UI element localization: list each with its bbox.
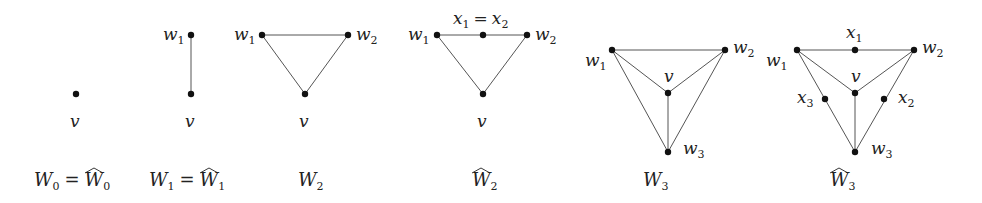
svg-text:w3: w3 (871, 138, 893, 161)
svg-text:w2: w2 (733, 37, 755, 60)
svg-text:x1: x1 (846, 22, 863, 45)
svg-text:w2: w2 (356, 24, 378, 47)
svg-text:x3: x3 (797, 87, 814, 110)
svg-text:w2: w2 (535, 24, 557, 47)
svg-text:w1: w1 (766, 50, 788, 73)
svg-text:v: v (664, 66, 674, 86)
svg-text:w1: w1 (585, 50, 607, 73)
svg-text:v: v (477, 111, 487, 131)
svg-text:w1: w1 (408, 24, 430, 47)
caption-w3-hat: W3 (830, 169, 856, 193)
svg-text:x2: x2 (898, 87, 915, 110)
node-w1 (188, 32, 194, 38)
svg-text:w2: w2 (922, 37, 944, 60)
caption-w3: W3 (643, 169, 669, 193)
graph-w3: w1 w2 v w3 W3 (585, 37, 755, 193)
label-w1: w1 (163, 24, 185, 47)
node-w2 (345, 32, 351, 38)
node-v (73, 91, 79, 97)
caption-w2: W2 (298, 169, 324, 193)
graph-w3-hat: w1 w2 x1 v x3 x2 w3 W3 (766, 22, 944, 193)
svg-text:w1: w1 (234, 24, 256, 47)
caption-w1: W1=W1 (149, 168, 225, 193)
svg-text:w3: w3 (683, 138, 705, 161)
node-v (302, 91, 308, 97)
svg-text:W1=W1: W1=W1 (149, 169, 225, 193)
label-v: v (185, 111, 195, 131)
wheel-graphs-diagram: v W0=W0 w1 v W1=W1 w1 w2 v W2 (0, 0, 982, 203)
svg-text:v: v (299, 111, 309, 131)
svg-text:W0=W0: W0=W0 (34, 169, 110, 193)
node-w1 (259, 32, 265, 38)
graph-w2-hat: w1 w2 x1=x2 v W2 (408, 8, 557, 193)
graph-w2: w1 w2 v W2 (234, 24, 378, 193)
caption-w0: W0=W0 (34, 168, 110, 193)
caption-w2-hat: W2 (472, 169, 498, 193)
node-v (188, 91, 194, 97)
label-v: v (70, 111, 80, 131)
graph-w0: v W0=W0 (34, 91, 110, 193)
svg-text:v: v (851, 66, 861, 86)
svg-text:x1=x2: x1=x2 (453, 8, 508, 31)
graph-w1: w1 v W1=W1 (149, 24, 225, 193)
